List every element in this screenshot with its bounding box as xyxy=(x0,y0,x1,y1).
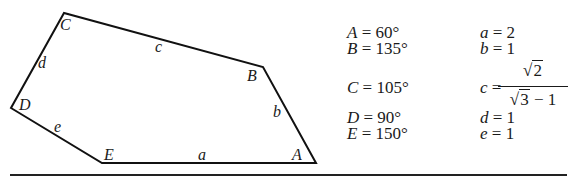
angle-c-value: = 105° xyxy=(358,78,408,97)
length-c-fraction: √2 √3 − 1 xyxy=(498,62,568,112)
vertex-label-a: A xyxy=(292,147,302,163)
angle-b-value: = 135° xyxy=(357,39,407,58)
angle-b-var: B xyxy=(347,39,357,58)
length-e-equation: e = 1 xyxy=(480,125,514,142)
vertex-label-b: B xyxy=(247,68,257,84)
angle-e-value: = 150° xyxy=(357,124,407,143)
denominator-radicand: 3 xyxy=(519,89,530,109)
pentagon-shape xyxy=(0,0,330,176)
length-b-var: b xyxy=(480,39,489,58)
fraction-numerator: √2 xyxy=(498,61,568,81)
angle-c-equation: C = 105° xyxy=(347,79,409,96)
side-label-a: a xyxy=(198,147,206,163)
angle-c-var: C xyxy=(347,78,358,97)
length-b-equation: b = 1 xyxy=(480,40,515,57)
horizontal-rule xyxy=(10,174,567,176)
vertex-label-e: E xyxy=(104,147,114,163)
fraction-bar xyxy=(498,86,568,87)
fraction-denominator: √3 − 1 xyxy=(498,90,568,110)
side-label-b: b xyxy=(273,104,281,120)
numerator-radicand: 2 xyxy=(532,60,543,80)
denominator-rest: − 1 xyxy=(530,90,557,109)
sqrt-symbol: √3 xyxy=(510,90,530,110)
angle-e-equation: E = 150° xyxy=(347,125,408,142)
length-e-var: e xyxy=(480,124,488,143)
vertex-label-d: D xyxy=(19,97,31,113)
side-label-c: c xyxy=(155,39,162,55)
length-b-value: = 1 xyxy=(489,39,516,58)
pentagon-figure: A B C D E a b c d e xyxy=(0,0,330,176)
side-label-e: e xyxy=(54,119,61,135)
length-e-value: = 1 xyxy=(488,124,515,143)
angle-b-equation: B = 135° xyxy=(347,40,408,57)
vertex-label-c: C xyxy=(60,17,71,33)
length-c-var: c xyxy=(480,78,488,97)
sqrt-symbol: √2 xyxy=(523,61,543,81)
angle-e-var: E xyxy=(347,124,357,143)
side-label-d: d xyxy=(38,55,46,71)
